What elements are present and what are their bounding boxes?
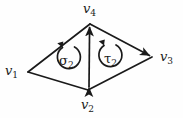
- vertex-label-v4: v4: [83, 2, 96, 15]
- face-label-sigma2: σ2: [59, 54, 74, 67]
- vertex-label-v3-sub: 3: [167, 56, 173, 66]
- vertex-label-v1: v1: [5, 64, 18, 77]
- vertex-label-v3: v3: [160, 50, 173, 63]
- vertex-label-v4-sub: 4: [90, 8, 96, 18]
- face-label-tau2-sub: 2: [111, 58, 117, 68]
- edge-v1-v2: [28, 72, 88, 90]
- vertex-label-v1-sub: 1: [12, 70, 18, 80]
- vertex-label-v2-sub: 2: [88, 104, 94, 114]
- edge-v2-v4: [89, 27, 90, 88]
- face-label-sigma2-sub: 2: [68, 60, 74, 70]
- figure-canvas: v4 v1 v3 v2 σ2 τ2: [0, 0, 183, 118]
- vertex-label-v2: v2: [81, 98, 94, 111]
- face-label-tau2: τ2: [104, 52, 117, 65]
- face-label-sigma2-text: σ: [59, 53, 68, 68]
